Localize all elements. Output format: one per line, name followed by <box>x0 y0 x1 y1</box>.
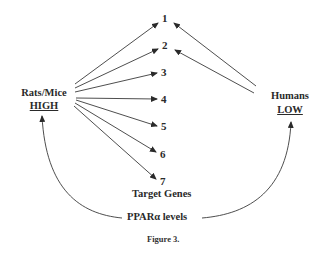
figure-caption: Figure 3. <box>147 235 179 244</box>
gene-7: 7 <box>160 176 166 187</box>
gene-1: 1 <box>162 13 168 24</box>
gene-3: 3 <box>161 67 167 78</box>
gene-2: 2 <box>162 40 168 51</box>
figure-3-diagram: Rats/Mice HIGH Humans LOW 1 2 3 4 5 6 7 … <box>0 0 327 253</box>
humans-node: Humans LOW <box>266 91 314 115</box>
arrow-rats-to-gene-4 <box>76 98 157 99</box>
arrow-ppar-to-rats <box>42 116 122 218</box>
ppar-levels-label: PPARα levels <box>127 212 187 223</box>
arrow-rats-to-gene-5 <box>76 100 157 126</box>
arrow-rats-to-gene-1 <box>75 23 158 84</box>
rats-mice-level: HIGH <box>17 101 71 112</box>
humans-label: Humans <box>266 91 314 102</box>
rats-mice-label: Rats/Mice <box>17 88 71 99</box>
arrow-humans-to-gene-1 <box>174 23 256 86</box>
arrow-ppar-to-humans <box>202 122 291 218</box>
rats-mice-node: Rats/Mice HIGH <box>17 88 71 111</box>
target-genes-label: Target Genes <box>132 189 191 200</box>
gene-4: 4 <box>161 94 167 105</box>
arrow-rats-to-gene-7 <box>74 106 156 179</box>
arrow-humans-to-gene-2 <box>175 50 254 93</box>
gene-6: 6 <box>160 149 166 160</box>
humans-level: LOW <box>266 105 314 116</box>
gene-5: 5 <box>161 121 167 132</box>
arrow-rats-to-gene-6 <box>75 103 156 152</box>
